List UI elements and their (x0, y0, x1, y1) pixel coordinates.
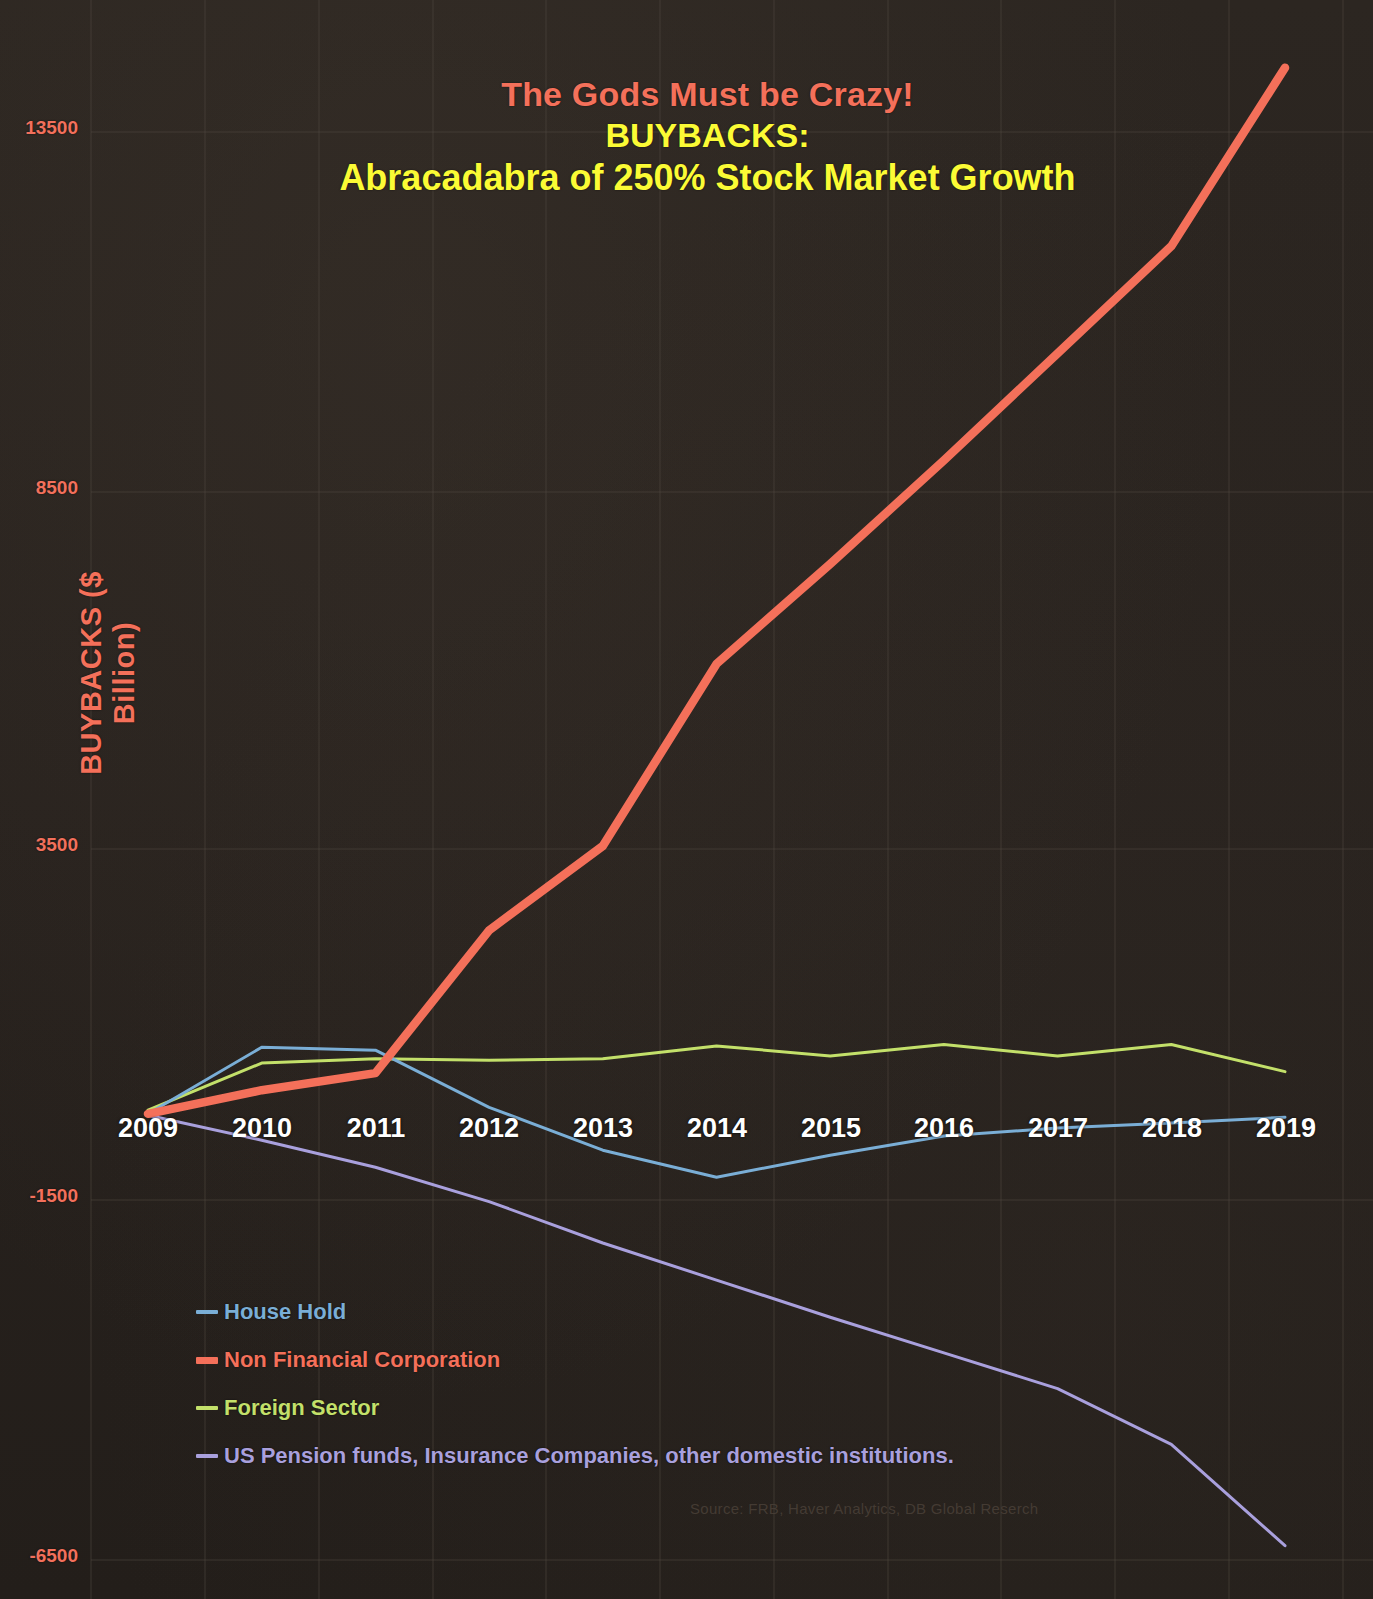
x-tick-2019: 2019 (1231, 1113, 1341, 1144)
legend-item-non-financial-corporation[interactable]: Non Financial Corporation (196, 1336, 954, 1384)
y-tick--6500: -6500 (0, 1545, 78, 1567)
x-tick-2013: 2013 (548, 1113, 658, 1144)
x-tick-2018: 2018 (1117, 1113, 1227, 1144)
y-tick-8500: 8500 (0, 477, 78, 499)
x-tick-2009: 2009 (93, 1113, 203, 1144)
x-tick-2012: 2012 (434, 1113, 544, 1144)
legend-item-pension-funds[interactable]: US Pension funds, Insurance Companies, o… (196, 1432, 954, 1480)
legend-label-pension-funds: US Pension funds, Insurance Companies, o… (224, 1443, 954, 1469)
x-tick-2010: 2010 (207, 1113, 317, 1144)
x-tick-2017: 2017 (1003, 1113, 1113, 1144)
legend-swatch-pension-funds (196, 1454, 218, 1458)
y-tick-3500: 3500 (0, 834, 78, 856)
y-tick-13500: 13500 (0, 117, 78, 139)
x-tick-2016: 2016 (889, 1113, 999, 1144)
chart-legend: House Hold Non Financial Corporation For… (196, 1288, 954, 1480)
legend-swatch-foreign-sector (196, 1406, 218, 1410)
legend-swatch-non-financial-corporation (196, 1357, 218, 1364)
legend-label-house-hold: House Hold (224, 1299, 346, 1325)
x-tick-2014: 2014 (662, 1113, 772, 1144)
legend-label-non-financial-corporation: Non Financial Corporation (224, 1347, 500, 1373)
legend-item-foreign-sector[interactable]: Foreign Sector (196, 1384, 954, 1432)
source-note: Source: FRB, Haver Analytics, DB Global … (690, 1500, 1038, 1517)
x-tick-2011: 2011 (321, 1113, 431, 1144)
chart-stage: The Gods Must be Crazy! BUYBACKS: Abraca… (0, 0, 1373, 1599)
legend-label-foreign-sector: Foreign Sector (224, 1395, 379, 1421)
legend-item-house-hold[interactable]: House Hold (196, 1288, 954, 1336)
legend-swatch-house-hold (196, 1310, 218, 1314)
y-axis-label: BUYBACKS ($ Billion) (75, 523, 141, 823)
y-tick--1500: -1500 (0, 1185, 78, 1207)
x-tick-2015: 2015 (776, 1113, 886, 1144)
